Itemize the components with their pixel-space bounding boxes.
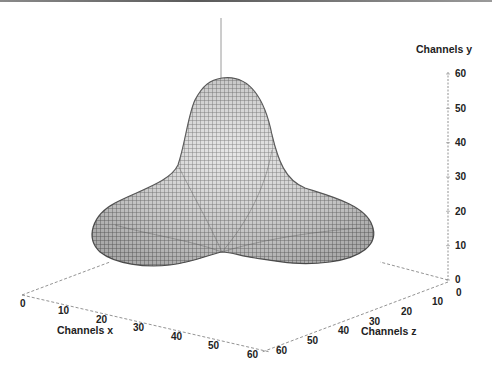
z-tick-10: 10	[432, 296, 444, 307]
x-axis-label: Channels x	[57, 324, 113, 336]
z-tick-50: 50	[307, 335, 319, 346]
x-tick-30: 30	[133, 322, 145, 333]
x-tick-40: 40	[171, 331, 183, 342]
z-tick-0: 0	[456, 287, 462, 298]
y-tick-0: 0	[455, 274, 461, 285]
x-tick-10: 10	[58, 305, 70, 316]
z-tick-40: 40	[338, 325, 350, 336]
y-tick-30: 30	[455, 171, 467, 182]
z-axis: 0 10 20 30 40 50 60 Channels z	[262, 282, 462, 356]
y-tick-50: 50	[455, 103, 467, 114]
y-tick-10: 10	[455, 240, 467, 251]
x-tick-60: 60	[247, 349, 259, 360]
x-tick-50: 50	[208, 340, 220, 351]
x-axis: 0 10 20 30 40 50 60 Channels x	[20, 295, 270, 360]
y-axis-label: Channels y	[416, 43, 472, 55]
y-tick-60: 60	[455, 68, 467, 79]
z-axis-label: Channels z	[361, 325, 416, 337]
back-right-floor-edge	[380, 262, 448, 280]
z-tick-20: 20	[401, 306, 413, 317]
y-tick-40: 40	[455, 137, 467, 148]
back-left-floor-edge	[22, 262, 110, 295]
mesh-surface	[92, 78, 374, 266]
y-tick-20: 20	[455, 206, 467, 217]
surface-plot: 0 10 20 30 40 50 60 Channels y 0 10 20 3…	[0, 0, 492, 374]
y-axis: 0 10 20 30 40 50 60 Channels y	[416, 43, 472, 285]
z-tick-60: 60	[276, 345, 288, 356]
x-tick-0: 0	[20, 298, 26, 309]
